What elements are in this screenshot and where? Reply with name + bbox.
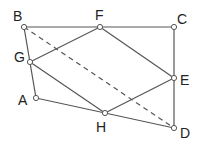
label-H: H — [96, 119, 106, 135]
label-A: A — [18, 92, 28, 108]
segments — [24, 27, 174, 128]
point-B — [21, 24, 26, 29]
label-E: E — [180, 72, 189, 88]
label-B: B — [13, 8, 22, 24]
point-D — [171, 125, 176, 130]
segment-EH — [105, 78, 174, 113]
segment-GF — [30, 27, 100, 62]
segment-FE — [100, 27, 174, 78]
geometry-diagram: BFCGEAHD — [0, 0, 199, 145]
label-G: G — [14, 49, 25, 65]
point-E — [171, 75, 176, 80]
label-F: F — [95, 7, 104, 23]
point-G — [27, 59, 32, 64]
point-C — [171, 24, 176, 29]
segment-BD-dashed — [24, 27, 174, 128]
point-A — [33, 95, 38, 100]
point-H — [102, 110, 107, 115]
label-D: D — [180, 125, 190, 141]
point-F — [97, 24, 102, 29]
label-C: C — [177, 11, 187, 27]
